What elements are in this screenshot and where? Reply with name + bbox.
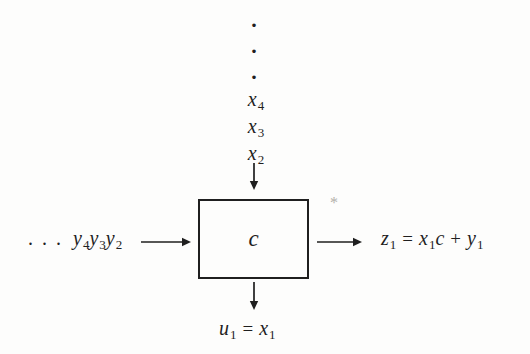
variable: y <box>467 227 476 249</box>
variable: x <box>259 317 268 339</box>
equation-lhs: z1 <box>381 227 396 249</box>
scan-artifact-asterisk: * <box>330 194 338 212</box>
left-input-stream-label: . . .y4y3y2 <box>28 227 122 249</box>
input-label-x3: x3 <box>234 115 278 137</box>
variable: z <box>381 227 389 249</box>
variable-subscript: 4 <box>258 98 265 113</box>
variable: x <box>248 88 257 110</box>
equation-rhs: x1 <box>259 317 275 339</box>
diagram-canvas: · · · x4 x3 x2 . . .y4y3y2 c * z1=x1c+y1… <box>0 0 530 354</box>
processing-cell-box: c <box>198 199 309 279</box>
equals-sign: = <box>402 228 413 249</box>
variable: u <box>219 317 229 339</box>
plus-sign: + <box>450 228 461 249</box>
down-arrow-top-input <box>244 161 264 193</box>
arrow-head <box>250 301 258 310</box>
vertical-ellipsis-dot: · <box>245 46 263 56</box>
equation-product-term: x1c <box>419 227 444 249</box>
right-arrow-left-input <box>140 233 194 251</box>
horizontal-ellipsis: . . . <box>28 227 63 249</box>
factor-variable: c <box>435 227 444 249</box>
arrow-head <box>353 238 362 246</box>
variable: x <box>419 227 428 249</box>
arrow-head <box>250 181 258 190</box>
equation-lhs: u1 <box>219 317 237 339</box>
input-term-y4: y4 <box>73 227 89 249</box>
variable-subscript: 3 <box>258 125 265 140</box>
variable: y <box>73 227 82 249</box>
variable-subscript: 2 <box>116 237 123 252</box>
input-label-x4: x4 <box>234 88 278 110</box>
variable-subscript: 1 <box>390 237 397 252</box>
arrow-head <box>182 238 191 246</box>
variable: x <box>248 115 257 137</box>
variable-subscript: 1 <box>230 327 237 342</box>
equals-sign: = <box>243 318 254 339</box>
down-arrow-bottom-output <box>244 281 264 313</box>
right-output-equation: z1=x1c+y1 <box>381 227 483 250</box>
vertical-ellipsis-dot: · <box>245 72 263 82</box>
bottom-output-equation: u1=x1 <box>219 317 276 340</box>
input-term-y3: y3 <box>89 227 105 249</box>
variable-subscript: 1 <box>477 237 484 252</box>
variable: y <box>106 227 115 249</box>
variable: y <box>89 227 98 249</box>
equation-addend-term: y1 <box>467 227 483 249</box>
cell-label: c <box>248 226 258 252</box>
variable-subscript: 1 <box>269 327 276 342</box>
input-term-y2: y2 <box>106 227 122 249</box>
right-arrow-output <box>315 233 367 251</box>
vertical-ellipsis-dot: · <box>245 20 263 30</box>
